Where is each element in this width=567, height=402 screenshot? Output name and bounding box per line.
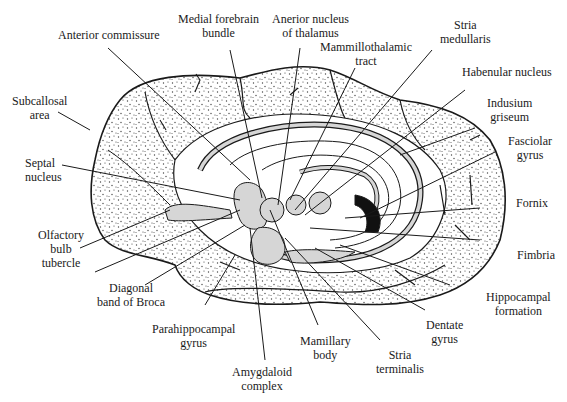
- label-mamillary-body: Mamillary body: [300, 334, 351, 362]
- label-olfactory-bulb-tubercle: Olfactory bulb tubercle: [38, 228, 84, 270]
- label-septal-nucleus: Septal nucleus: [25, 156, 62, 184]
- label-fimbria: Fimbria: [517, 248, 555, 262]
- label-dentate-gyrus: Dentate gyrus: [426, 318, 463, 346]
- label-mammillothalamic-tract: Mammillothalamic tract: [320, 40, 412, 68]
- label-habenular-nucleus: Habenular nucleus: [462, 65, 552, 79]
- label-hippocampal-formation: Hippocampal formation: [486, 290, 551, 318]
- cortex-outline: [91, 67, 505, 305]
- label-amygdaloid-complex: Amygdaloid complex: [232, 365, 292, 393]
- label-anterior-nucleus-thalamus: Anerior nucleus of thalamus: [272, 12, 349, 40]
- label-medial-forebrain-bundle: Medial forebrain bundle: [178, 12, 259, 40]
- label-indusium-griseum: Indusium griseum: [487, 96, 532, 124]
- label-anterior-commissure: Anterior commissure: [58, 28, 160, 42]
- label-fornix: Fornix: [516, 196, 548, 210]
- label-subcallosal-area: Subcallosal area: [12, 94, 67, 122]
- label-parahippocampal-gyrus: Parahippocampal gyrus: [152, 322, 235, 350]
- limbic-diagram: [0, 0, 567, 402]
- label-diagonal-band-broca: Diagonal band of Broca: [97, 281, 165, 309]
- label-stria-medullaris: Stria medullaris: [440, 18, 491, 46]
- label-fasciolar-gyrus: Fasciolar gyrus: [508, 134, 552, 162]
- label-stria-terminalis: Stria terminalis: [376, 348, 424, 376]
